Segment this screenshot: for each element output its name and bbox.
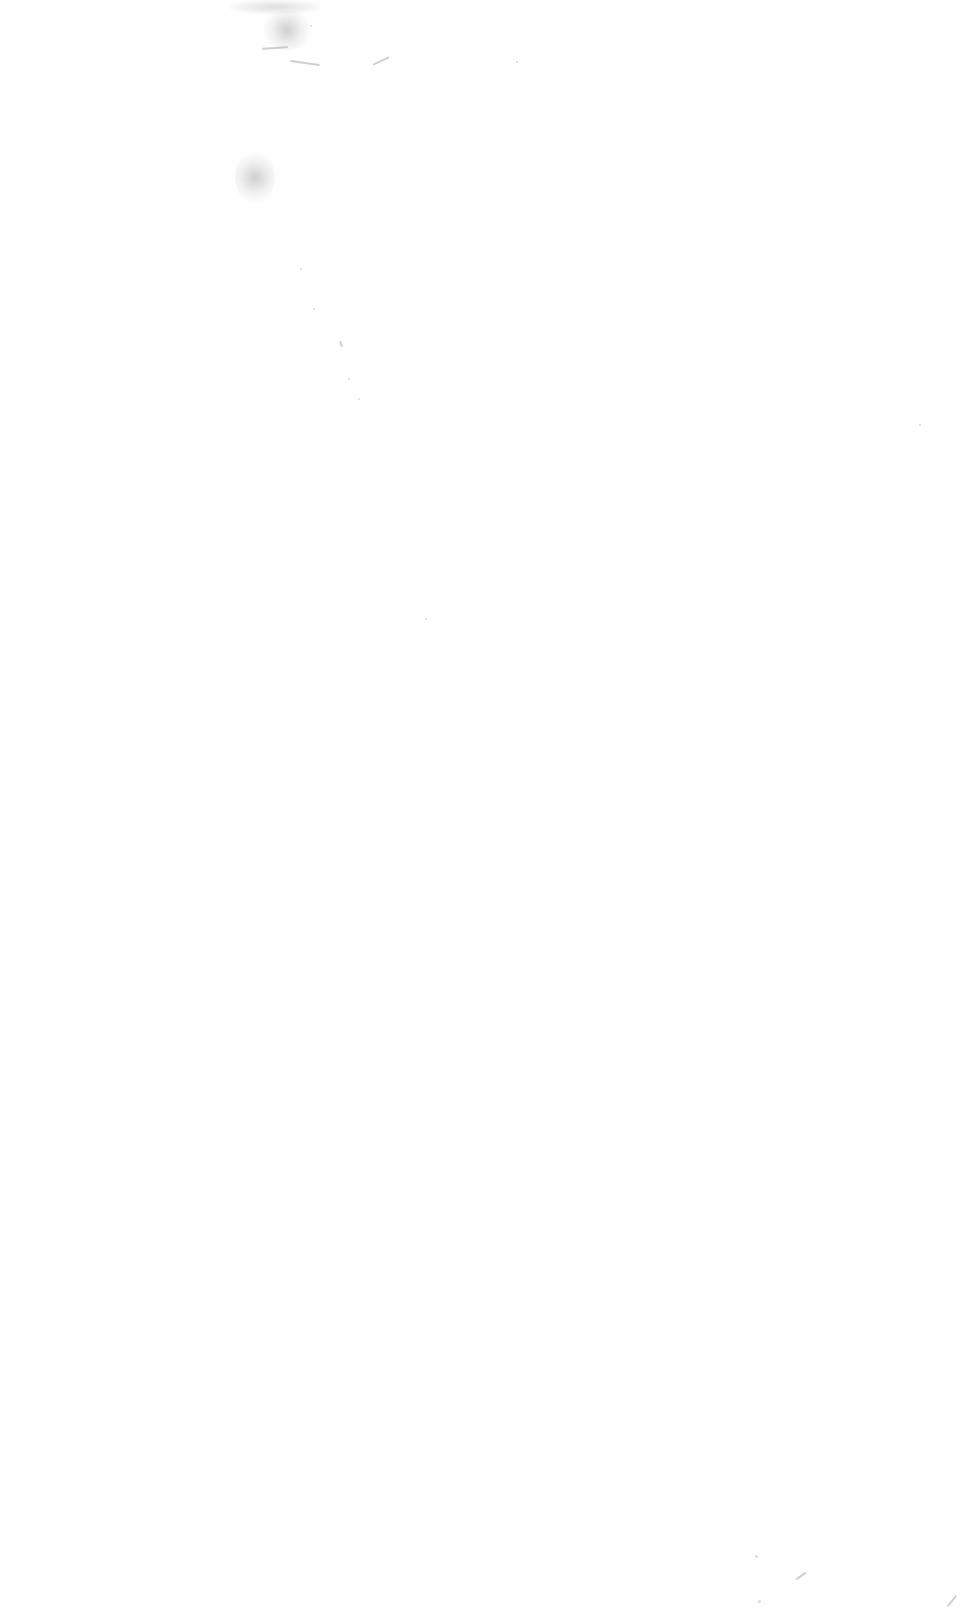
scan-smudge	[235, 150, 275, 205]
scan-stroke	[372, 56, 389, 65]
scan-stroke	[947, 1595, 958, 1607]
scan-stroke	[290, 60, 320, 66]
scan-speck	[300, 268, 302, 270]
scan-speck	[755, 1555, 758, 1558]
scan-smudge	[262, 10, 312, 50]
scan-speck	[313, 308, 315, 310]
scan-speck	[348, 378, 350, 380]
scan-speck	[758, 1600, 761, 1603]
scan-speck	[919, 424, 921, 426]
page-description: Blank white page with faint scan noise	[0, 0, 1, 1]
scan-stroke	[339, 341, 343, 347]
scan-speck	[358, 398, 360, 400]
scan-speck	[516, 61, 518, 63]
scan-stroke	[796, 1572, 807, 1581]
blank-page: Blank white page with faint scan noise	[0, 0, 963, 1618]
scan-speck	[425, 618, 427, 620]
scan-speck	[310, 25, 312, 27]
